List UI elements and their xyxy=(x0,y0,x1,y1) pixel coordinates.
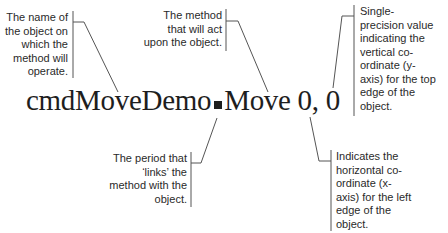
annotation-top-coordinate: Single- precision value indicating the v… xyxy=(360,5,448,113)
period-marker-icon xyxy=(214,101,222,109)
top-leader xyxy=(333,16,354,88)
left-leader xyxy=(310,117,331,161)
syntax-diagram: The name of the object on which the meth… xyxy=(0,0,448,233)
annotation-period: The period that ‘links’ the method with … xyxy=(100,152,187,206)
annotation-left-coordinate: Indicates the horizontal co- ordinate (x… xyxy=(336,150,436,231)
code-statement: cmdMoveDemoMove 0, 0 xyxy=(26,84,340,117)
method-leader xyxy=(226,21,268,92)
annotation-method: The method that will act upon the object… xyxy=(140,9,222,50)
object-name: cmdMoveDemo xyxy=(26,84,211,116)
method-name: Move xyxy=(224,84,290,116)
arguments: 0, 0 xyxy=(298,84,340,116)
object-leader xyxy=(73,22,118,92)
period-leader xyxy=(191,118,217,163)
annotation-object-name: The name of the object on which the meth… xyxy=(0,11,68,79)
